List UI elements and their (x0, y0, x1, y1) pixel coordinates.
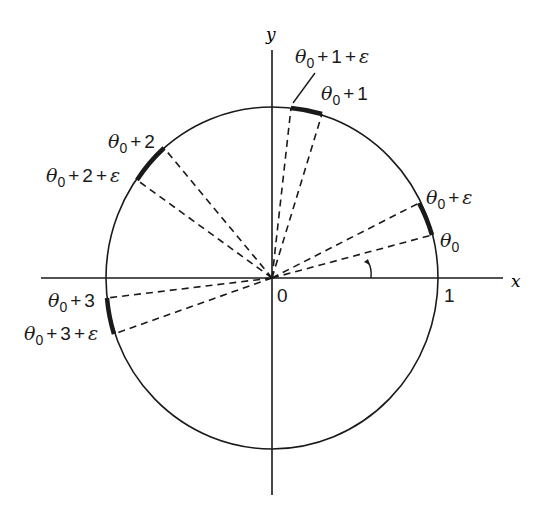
label-theta2-eps: θ0+2+ε (46, 164, 120, 190)
radius-theta3 (107, 278, 272, 298)
label-theta2: θ0+2 (108, 130, 155, 156)
label-theta1-eps: θ0+1+ε (295, 45, 369, 71)
radius-theta1 (272, 114, 322, 278)
radius-theta0-eps (272, 203, 419, 278)
unit-circle-diagram: y x 0 1 θ0 θ0+ε θ0+1 θ0+1+ε θ0+2 θ0+2+ε … (0, 0, 544, 511)
arc-1 (291, 108, 322, 114)
radius-theta3-eps (114, 278, 272, 334)
y-axis-label: y (265, 24, 276, 44)
x-axis-label: x (511, 271, 521, 291)
radius-theta0 (272, 235, 432, 278)
arc-2 (137, 148, 164, 180)
label-theta0-eps: θ0+ε (426, 186, 473, 212)
label-theta0: θ0 (440, 229, 459, 255)
unit-label: 1 (444, 285, 455, 306)
angle-arrowhead-icon (364, 259, 370, 265)
origin-label: 0 (277, 285, 288, 306)
radius-theta2 (164, 148, 272, 278)
radius-theta2-eps (137, 180, 272, 278)
radii-dashed (107, 108, 432, 334)
label-theta3-eps: θ0+3+ε (24, 322, 98, 348)
arc-3 (107, 298, 114, 334)
radius-theta1-eps (272, 108, 291, 278)
label-theta1: θ0+1 (321, 82, 368, 108)
label-theta3: θ0+3 (48, 289, 95, 315)
leader-line (293, 73, 315, 103)
